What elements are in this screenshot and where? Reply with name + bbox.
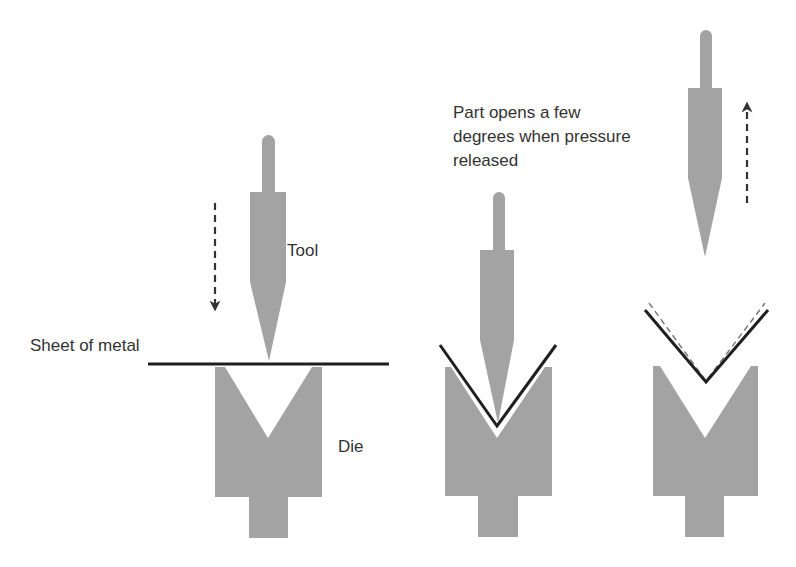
sheet-under-pressure-dashed bbox=[649, 303, 765, 381]
tool-1 bbox=[250, 135, 286, 361]
stage-3-after-release bbox=[645, 30, 768, 537]
die-1 bbox=[215, 367, 322, 538]
sheet-of-metal-label: Sheet of metal bbox=[30, 334, 140, 358]
stage-1-before-bending bbox=[148, 135, 389, 538]
springback-note-line-1: Part opens a few bbox=[453, 101, 631, 125]
springback-note: Part opens a few degrees when pressure r… bbox=[453, 101, 631, 173]
springback-note-line-2: degrees when pressure bbox=[453, 125, 631, 149]
tool-label: Tool bbox=[287, 239, 318, 263]
stage-2-bending bbox=[440, 192, 556, 537]
die-3 bbox=[653, 366, 758, 537]
tool-3 bbox=[688, 30, 722, 257]
springback-note-line-3: released bbox=[453, 149, 631, 173]
die-label: Die bbox=[338, 435, 364, 459]
press-brake-diagram bbox=[0, 0, 796, 567]
tool-2 bbox=[480, 192, 514, 423]
